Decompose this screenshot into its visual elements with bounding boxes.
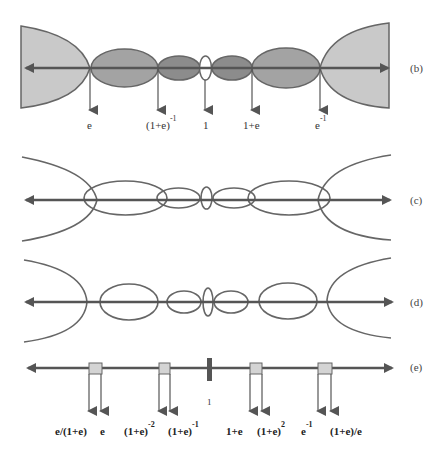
label-1pe-2: 1+e <box>226 425 243 437</box>
panel-e: 1 e/(1+e) e (1+e)-2 (1+e)-1 1+e (1+e)2 e… <box>28 358 423 438</box>
label-e-inv-2: e-1 <box>301 420 313 437</box>
label-center-one: 1 <box>207 397 212 407</box>
label-inv-e: e-1 <box>315 114 327 131</box>
label-1pe-sq: (1+e)2 <box>257 420 285 438</box>
right-outer-region <box>320 23 389 108</box>
label-1pe-inv2: (1+e)-2 <box>124 420 155 438</box>
right-parabola-c <box>318 155 391 240</box>
panel-tag-e: (e) <box>410 361 423 374</box>
panel-b: e (1+e)-1 1 1+e e-1 (b) <box>21 23 423 132</box>
label-1pe-over-e: (1+e)/e <box>330 425 362 438</box>
panel-d: (d) <box>24 258 423 342</box>
interval-box-3 <box>250 363 262 374</box>
interval-box-4 <box>318 363 332 374</box>
label-e-2: e <box>100 425 105 437</box>
right-parabola-d <box>327 258 391 338</box>
panel-tag-b: (b) <box>410 62 423 75</box>
interval-box-1 <box>89 363 102 374</box>
label-inv-1pe: (1+e)-1 <box>146 114 177 132</box>
label-e-over-1pe: e/(1+e) <box>55 425 87 438</box>
panel-tag-c: (c) <box>410 194 423 207</box>
label-one: 1 <box>203 119 209 131</box>
label-1pe: 1+e <box>243 119 260 131</box>
label-e: e <box>87 119 92 131</box>
panel-tag-d: (d) <box>410 296 423 309</box>
panel-c: (c) <box>22 155 423 241</box>
interval-box-2 <box>159 363 170 374</box>
label-1pe-inv1: (1+e)-1 <box>168 420 199 438</box>
center-bar <box>207 358 212 381</box>
number-line-diagram: e (1+e)-1 1 1+e e-1 (b) (c) (d) <box>0 0 447 459</box>
